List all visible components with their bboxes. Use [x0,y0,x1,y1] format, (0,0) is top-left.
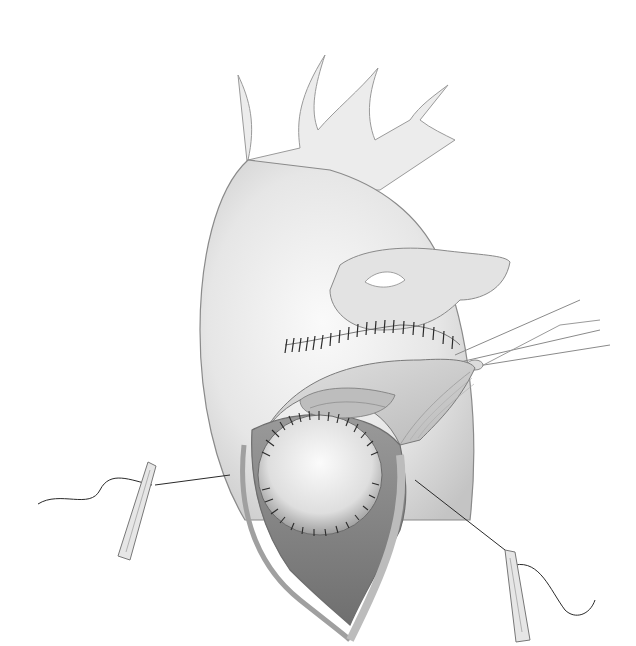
heart-drawing [0,0,636,646]
surgical-illustration [0,0,636,646]
upper-right-instrument [455,300,610,372]
left-stay-suture-clamp [38,462,230,560]
